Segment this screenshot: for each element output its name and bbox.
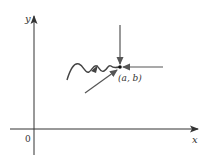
wavy-approach-curve (67, 64, 119, 80)
limit-diagram: y x 0 (a, b) (0, 0, 210, 157)
y-axis-label: y (24, 13, 31, 24)
origin-label: 0 (25, 134, 31, 144)
point-label: (a, b) (118, 73, 142, 83)
point-a-b (118, 65, 122, 69)
diagonal-approach-arrow (85, 70, 117, 93)
x-axis-label: x (192, 134, 198, 145)
